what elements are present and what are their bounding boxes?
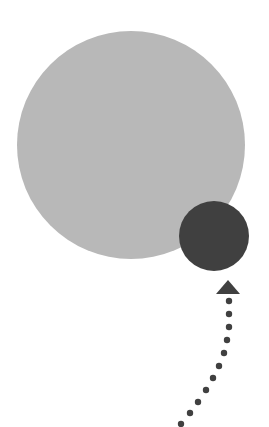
arrow-dot [195,399,201,405]
arrow-dot [187,410,193,416]
arrow-dot [221,350,227,356]
arrow-dot [203,387,209,393]
arrow-dot [226,311,232,317]
dotted-arrow [178,280,240,427]
small-dark-circle [179,201,249,271]
diagram-canvas [0,0,269,427]
arrowhead-icon [216,280,240,294]
arrow-dot [210,375,216,381]
arrow-dot [226,298,232,304]
arrow-dotted-path [178,298,232,427]
arrow-dot [226,324,232,330]
arrow-dot [224,337,230,343]
arrow-dot [216,363,222,369]
arrow-dot [178,421,184,427]
